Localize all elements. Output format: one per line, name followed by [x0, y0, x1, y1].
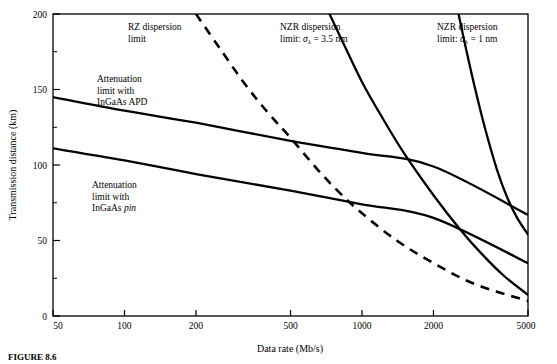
y-tick-label: 150: [33, 85, 48, 95]
annotation-line-1: Attenuation: [97, 74, 147, 86]
x-tick-label: 1000: [352, 321, 371, 331]
series-curve-2: [196, 14, 528, 301]
annotation-line-3: InGaAs APD: [97, 97, 147, 109]
x-axis-tick-labels: 50100200500100020005000: [53, 321, 536, 331]
annotation-value-text: = 3.5 nm: [311, 34, 348, 44]
annotation-value-text: = 1 nm: [468, 34, 497, 44]
x-tick-label: 200: [189, 321, 204, 331]
y-tick-label: 50: [38, 236, 48, 246]
x-tick-label: 100: [117, 321, 132, 331]
series-curve-3: [330, 14, 528, 295]
y-axis-ticks: [53, 14, 60, 316]
x-axis-title: Data rate (Mb/s): [257, 343, 323, 355]
annotation-line-3-emphasis: pin: [124, 203, 136, 213]
y-tick-label: 200: [33, 10, 48, 20]
annotation-line-1: NZR dispersion: [280, 22, 348, 34]
y-tick-label: 0: [42, 312, 47, 322]
annotation-line-1: Attenuation: [92, 180, 137, 192]
annotation-line-2: limit: σλ = 1 nm: [437, 34, 497, 49]
annotation-line-1: RZ dispersion: [128, 22, 182, 34]
annotation-line-2: limit: [128, 34, 182, 46]
annotation-line-3-text: InGaAs: [92, 203, 124, 213]
x-tick-label: 5000: [517, 321, 536, 331]
x-axis-ticks: [53, 310, 528, 316]
annotation-nzr-dispersion-limit-1nm: NZR dispersion limit: σλ = 1 nm: [437, 22, 497, 48]
annotation-line-1: NZR dispersion: [437, 22, 497, 34]
y-tick-label: 100: [33, 161, 48, 171]
annotation-line-2: limit with: [92, 192, 137, 204]
figure-caption: FIGURE 8.6: [8, 352, 57, 363]
x-tick-label: 2000: [424, 321, 443, 331]
annotation-line-3: InGaAs pin: [92, 203, 137, 215]
y-axis-title: Transmission distance (km): [7, 110, 19, 221]
annotation-line-2: limit with: [97, 86, 147, 98]
annotation-limit-text: limit:: [437, 34, 460, 44]
plot-frame: [53, 14, 528, 316]
annotation-nzr-dispersion-limit-3p5nm: NZR dispersion limit: σλ = 3.5 nm: [280, 22, 348, 48]
x-tick-label: 50: [53, 321, 63, 331]
annotation-attenuation-limit-apd: Attenuation limit with InGaAs APD: [97, 74, 147, 109]
figure-container: 50100200500100020005000 050100150200 Dat…: [0, 0, 557, 364]
annotation-line-2: limit: σλ = 3.5 nm: [280, 34, 348, 49]
annotation-attenuation-limit-pin: Attenuation limit with InGaAs pin: [92, 180, 137, 215]
data-series-group: [53, 14, 528, 301]
annotation-rz-dispersion-limit: RZ dispersion limit: [128, 22, 182, 45]
chart-canvas: 50100200500100020005000 050100150200 Dat…: [0, 0, 557, 364]
x-tick-label: 500: [283, 321, 298, 331]
annotation-limit-text: limit:: [280, 34, 303, 44]
y-axis-tick-labels: 050100150200: [33, 10, 48, 322]
